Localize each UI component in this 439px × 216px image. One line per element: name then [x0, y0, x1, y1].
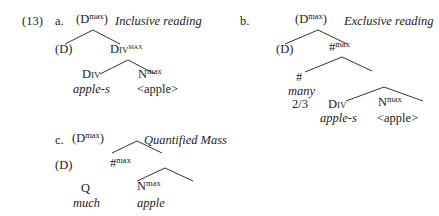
tree-b-reading: Exclusive reading — [344, 14, 433, 28]
tree-a-divmax: Divmax — [110, 42, 143, 57]
tree-b-root: (Dmax) — [295, 12, 327, 27]
tree-c-root: (Dmax) — [72, 131, 104, 146]
tree-b-nmax: Nmax — [378, 95, 402, 110]
tree-b-hashmax: #max — [329, 40, 350, 55]
tree-a-n-word: <apple> — [137, 82, 178, 96]
tree-c-q: Q — [81, 181, 90, 195]
tree-a-div-word: apple-s — [73, 82, 110, 96]
label-c: c. — [55, 133, 64, 147]
tree-a-reading: Inclusive reading — [115, 14, 202, 28]
tree-c-nmax: Nmax — [137, 179, 161, 194]
tree-c-hashmax: #max — [110, 156, 131, 171]
tree-b-many: many — [288, 84, 315, 98]
tree-branches — [0, 0, 439, 216]
tree-a-left-d: (D) — [55, 42, 72, 56]
tree-a-root: (Dmax) — [76, 12, 108, 27]
tree-b-two-thirds: 2/3 — [292, 97, 308, 111]
example-number: (13) — [22, 14, 43, 28]
label-b: b. — [240, 14, 249, 28]
tree-a-nmax: Nmax — [138, 67, 162, 82]
label-a: a. — [55, 14, 64, 28]
tree-c-left-d: (D) — [55, 158, 72, 172]
tree-b-n-word: <apple> — [377, 111, 418, 125]
tree-c-apple: apple — [137, 196, 165, 210]
tree-b-hash: # — [296, 70, 302, 84]
tree-b-div: Div — [328, 97, 347, 111]
tree-c-much: much — [73, 196, 100, 210]
tree-a-div: Div — [82, 67, 101, 81]
tree-c-reading: Quantified Mass — [144, 133, 227, 147]
tree-b-div-word: apple-s — [320, 111, 357, 125]
tree-b-left-d: (D) — [276, 42, 293, 56]
